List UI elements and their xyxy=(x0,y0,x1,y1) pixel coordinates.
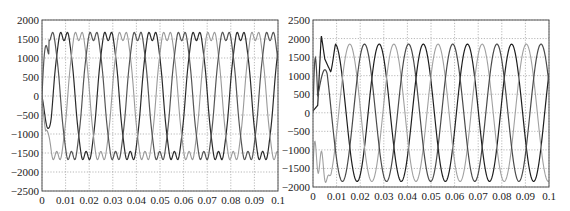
x-tick-label: 0.1 xyxy=(271,194,285,206)
x-tick-label: 0.08 xyxy=(492,190,512,202)
y-tick-label: 500 xyxy=(294,88,311,100)
y-tick-label: −500 xyxy=(287,125,310,137)
x-tick-label: 0.1 xyxy=(542,190,556,202)
x-tick-label: 0.02 xyxy=(80,194,99,206)
x-tick-label: 0.03 xyxy=(103,194,123,206)
x-tick-label: 0.05 xyxy=(421,190,441,202)
y-tick-label: −1500 xyxy=(11,147,40,159)
y-tick-label: 2000 xyxy=(17,14,40,26)
x-tick-label: 0 xyxy=(310,190,316,202)
y-tick-label: 0 xyxy=(305,107,311,119)
x-tick-label: 0.01 xyxy=(56,194,75,206)
x-tick-label: 0.04 xyxy=(127,194,147,206)
x-tick-label: 0.08 xyxy=(221,194,241,206)
y-tick-label: −2000 xyxy=(282,181,311,193)
x-tick-label: 0 xyxy=(39,194,45,206)
left-waveform-chart: 00.010.020.030.040.050.060.070.080.090.1… xyxy=(11,14,285,206)
y-tick-label: 0 xyxy=(34,90,40,102)
y-tick-label: 1500 xyxy=(17,33,40,45)
y-tick-label: 500 xyxy=(23,71,40,83)
x-tick-label: 0.07 xyxy=(198,194,218,206)
y-tick-label: −2000 xyxy=(11,166,40,178)
x-tick-label: 0.04 xyxy=(398,190,418,202)
y-tick-label: 2500 xyxy=(288,14,311,26)
y-tick-label: 1000 xyxy=(288,70,311,82)
x-tick-label: 0.06 xyxy=(174,194,194,206)
y-tick-label: −1500 xyxy=(282,162,311,174)
x-tick-label: 0.09 xyxy=(245,194,265,206)
y-tick-label: 2000 xyxy=(288,33,311,45)
x-tick-label: 0.01 xyxy=(327,190,346,202)
y-tick-label: −1000 xyxy=(282,144,311,156)
y-tick-label: −2500 xyxy=(11,185,40,197)
right-waveform-chart: 00.010.020.030.040.050.060.070.080.090.1… xyxy=(282,14,556,202)
x-tick-label: 0.05 xyxy=(150,194,170,206)
x-tick-label: 0.03 xyxy=(374,190,394,202)
waveform-charts: 00.010.020.030.040.050.060.070.080.090.1… xyxy=(0,0,570,211)
x-tick-label: 0.07 xyxy=(469,190,489,202)
x-tick-label: 0.09 xyxy=(516,190,536,202)
x-tick-label: 0.06 xyxy=(445,190,465,202)
y-tick-label: 1500 xyxy=(288,51,311,63)
y-tick-label: 1000 xyxy=(17,52,40,64)
y-tick-label: −500 xyxy=(16,109,39,121)
y-tick-label: −1000 xyxy=(11,128,40,140)
x-tick-label: 0.02 xyxy=(351,190,370,202)
